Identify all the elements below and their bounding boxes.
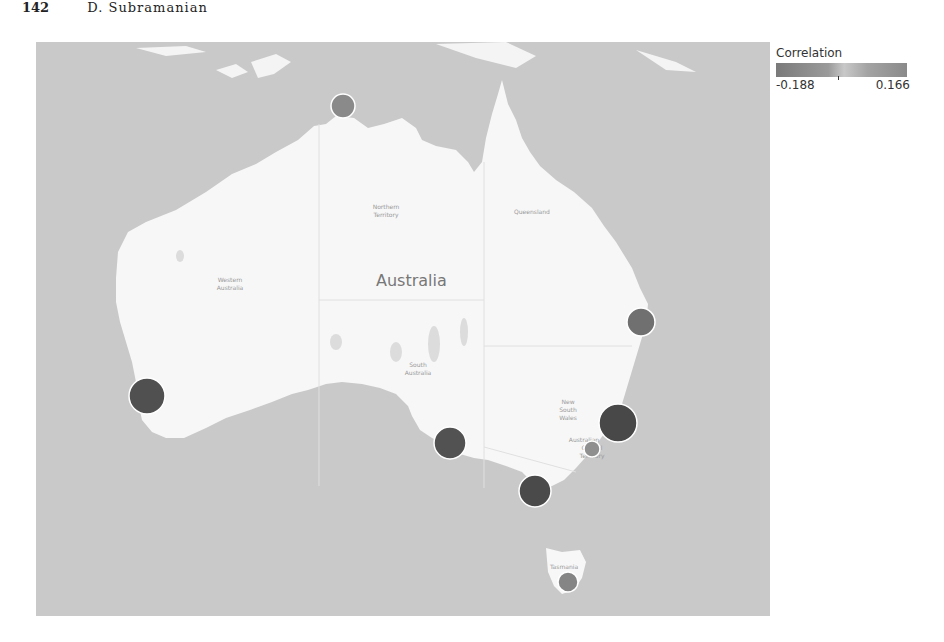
svg-text:Australia: Australia <box>405 369 432 376</box>
marker-canberra[interactable] <box>584 441 600 457</box>
svg-text:Australia: Australia <box>217 284 244 291</box>
marker-darwin[interactable] <box>331 94 355 118</box>
legend-title: Correlation <box>776 46 916 60</box>
country-label: Australia <box>376 271 447 290</box>
island <box>636 50 696 72</box>
author-name: D. Subramanian <box>87 0 208 15</box>
page-number: 142 <box>22 0 49 15</box>
island <box>251 54 291 78</box>
svg-text:Northern: Northern <box>373 203 400 210</box>
correlation-legend: Correlation -0.188 0.166 <box>776 46 916 92</box>
page-header: 142 D. Subramanian <box>22 0 208 14</box>
island <box>436 42 536 68</box>
island <box>216 64 248 78</box>
svg-text:South: South <box>559 406 577 413</box>
legend-max-label: 0.166 <box>876 78 910 92</box>
legend-zero-tick <box>838 76 839 80</box>
svg-text:Wales: Wales <box>559 414 577 421</box>
svg-text:New: New <box>561 398 574 405</box>
marker-brisbane[interactable] <box>627 308 655 336</box>
svg-text:Tasmania: Tasmania <box>549 563 578 570</box>
island <box>136 46 206 56</box>
svg-text:South: South <box>409 361 427 368</box>
marker-melbourne[interactable] <box>519 475 551 507</box>
marker-perth[interactable] <box>129 378 165 414</box>
svg-text:Queensland: Queensland <box>514 208 550 215</box>
svg-text:Western: Western <box>218 276 243 283</box>
australia-map: Australia NorthernTerritory Queensland W… <box>36 42 770 616</box>
svg-text:Territory: Territory <box>373 211 399 219</box>
marker-hobart[interactable] <box>558 572 578 592</box>
marker-adelaide[interactable] <box>434 427 466 459</box>
map-view[interactable]: Australia NorthernTerritory Queensland W… <box>36 42 770 616</box>
marker-sydney[interactable] <box>599 404 637 442</box>
legend-color-scale <box>776 63 907 77</box>
legend-min-label: -0.188 <box>776 78 815 92</box>
